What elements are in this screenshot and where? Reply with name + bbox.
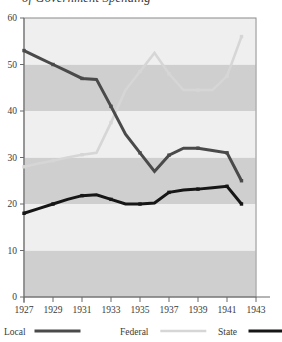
data-point-marker [196, 147, 199, 150]
data-point-marker [225, 74, 228, 77]
y-tick-label: 60 [8, 13, 18, 23]
y-tick-label: 0 [12, 292, 17, 302]
data-point-marker [22, 49, 25, 52]
y-tick-label: 20 [8, 199, 18, 209]
x-axis: 192719291931193319351937193919411943 [15, 297, 271, 315]
data-point-marker [22, 212, 25, 215]
y-tick-label: 50 [8, 60, 18, 70]
x-tick-label: 1937 [160, 305, 179, 315]
data-point-marker [22, 165, 25, 168]
x-tick-label: 1941 [218, 305, 237, 315]
data-point-marker [80, 153, 83, 156]
x-tick-label: 1935 [131, 305, 150, 315]
data-point-marker [80, 77, 83, 80]
data-point-marker [109, 105, 112, 108]
y-tick-label: 10 [8, 246, 18, 256]
data-point-marker [167, 191, 170, 194]
x-tick-label: 1939 [189, 305, 208, 315]
band-0-10 [25, 251, 256, 298]
y-tick-label: 40 [8, 106, 18, 116]
data-point-marker [138, 202, 141, 205]
data-point-marker [240, 35, 243, 38]
band-50-60 [25, 18, 256, 65]
data-point-marker [138, 151, 141, 154]
chart-figure: of Government Spending 0102030405060 192… [0, 0, 282, 342]
background-bands [25, 18, 256, 297]
data-point-marker [51, 159, 54, 162]
legend-label-federal: Federal [120, 327, 149, 337]
x-tick-label: 1933 [102, 305, 121, 315]
legend-label-local: Local [4, 327, 26, 337]
data-point-marker [80, 194, 83, 197]
x-tick-label: 1929 [44, 305, 63, 315]
x-tick-label: 1931 [73, 305, 92, 315]
chart-legend: LocalFederalState [4, 327, 282, 337]
data-point-marker [240, 202, 243, 205]
data-point-marker [167, 72, 170, 75]
data-point-marker [225, 185, 228, 188]
data-point-marker [51, 63, 54, 66]
y-tick-label: 30 [8, 153, 18, 163]
y-tick-group: 0102030405060 [8, 13, 25, 302]
data-point-marker [138, 70, 141, 73]
data-point-marker [225, 151, 228, 154]
data-point-marker [240, 179, 243, 182]
data-point-marker [109, 121, 112, 124]
band-10-20 [25, 204, 256, 251]
x-tick-label: 1943 [247, 305, 266, 315]
data-point-marker [167, 153, 170, 156]
chart-canvas: 0102030405060 19271929193119331935193719… [0, 0, 282, 342]
x-tick-label: 1927 [15, 305, 34, 315]
data-point-marker [51, 202, 54, 205]
data-point-marker [196, 88, 199, 91]
band-20-30 [25, 158, 256, 205]
legend-label-state: State [218, 327, 237, 337]
data-point-marker [109, 198, 112, 201]
data-point-marker [196, 187, 199, 190]
